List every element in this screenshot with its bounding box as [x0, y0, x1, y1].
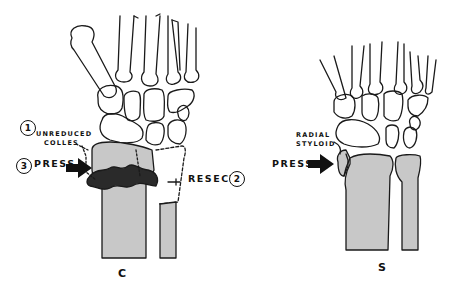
left-radius-unreduced-colles: [87, 142, 158, 258]
left-ulna-resect: [156, 146, 185, 258]
callout-number-1: 1: [20, 120, 36, 136]
label-press-right: PRESS: [272, 158, 314, 169]
callout-number-2: 2: [229, 171, 245, 187]
panel-label-s: S: [378, 261, 387, 274]
label-press-left: PRESS: [34, 158, 76, 169]
right-ulna: [395, 155, 421, 250]
label-styloid: STYLOID: [296, 140, 335, 148]
left-hand-bones: [71, 14, 199, 145]
right-hand-bones: [320, 42, 436, 148]
label-radial: RADIAL: [296, 131, 330, 139]
panel-label-c: C: [118, 267, 127, 280]
wrist-diagram: [0, 0, 454, 299]
right-radius-styloid: [337, 150, 393, 250]
label-colles: COLLES: [44, 139, 79, 147]
label-unreduced: UNREDUCED: [36, 130, 92, 138]
callout-number-3: 3: [16, 158, 32, 174]
